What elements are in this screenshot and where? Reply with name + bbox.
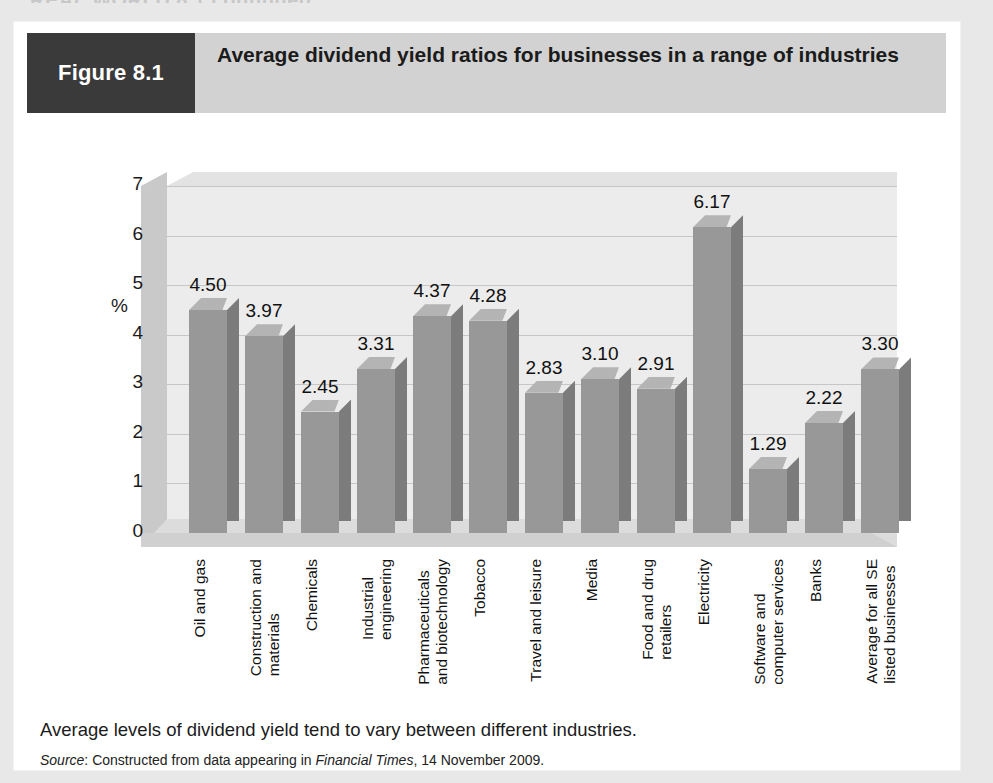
bar[interactable]	[525, 393, 563, 533]
source-publication: Financial Times	[316, 752, 414, 768]
bar[interactable]	[357, 369, 395, 533]
figure-source: Source: Constructed from data appearing …	[40, 752, 544, 768]
bar[interactable]	[245, 336, 283, 533]
x-axis-category-label: Construction and materials	[247, 559, 284, 676]
bar-side-face	[283, 324, 295, 521]
bar-value-label: 3.10	[572, 343, 628, 365]
plot-left-wall	[141, 172, 167, 533]
figure-number-badge: Figure 8.1	[27, 33, 195, 113]
bar-side-face	[451, 304, 463, 521]
gridline	[167, 186, 897, 187]
x-axis-category-label: Food and drug retailers	[639, 559, 676, 660]
gridline	[167, 236, 897, 237]
figure-number-label: Figure 8.1	[58, 60, 164, 86]
bar-value-label: 2.83	[516, 357, 572, 379]
bar-side-face	[507, 309, 519, 521]
y-axis-tick-label: 5	[109, 272, 143, 294]
bar-side-face	[731, 215, 743, 521]
bar-value-label: 4.37	[404, 280, 460, 302]
bar[interactable]	[693, 227, 731, 533]
x-axis-category-label: Electricity	[695, 559, 713, 625]
bar-value-label: 2.22	[796, 387, 852, 409]
bar-value-label: 6.17	[684, 191, 740, 213]
plot-back-top	[167, 172, 897, 186]
bar-value-label: 1.29	[740, 433, 796, 455]
bar-side-face	[563, 381, 575, 521]
figure-caption: Average levels of dividend yield tend to…	[40, 719, 637, 741]
x-axis-category-label: Tobacco	[471, 559, 489, 617]
bar[interactable]	[637, 389, 675, 533]
y-axis-tick-label: 6	[109, 223, 143, 245]
bar[interactable]	[861, 369, 899, 533]
source-prefix: Source	[40, 752, 84, 768]
bar[interactable]	[581, 379, 619, 533]
x-axis-category-label: Chemicals	[303, 559, 321, 631]
source-text-1: : Constructed from data appearing in	[84, 752, 315, 768]
bar-side-face	[395, 357, 407, 521]
figure-header: Figure 8.1 Average dividend yield ratios…	[27, 33, 946, 113]
y-axis-tick-label: 2	[109, 421, 143, 443]
bar[interactable]	[301, 412, 339, 533]
bar-side-face	[675, 377, 687, 521]
running-head: REAL WORLD 8.1 continued	[30, 0, 312, 3]
figure-card: Figure 8.1 Average dividend yield ratios…	[14, 22, 960, 770]
bar[interactable]	[805, 423, 843, 533]
source-text-2: , 14 November 2009.	[413, 752, 544, 768]
bar-side-face	[339, 400, 351, 521]
x-axis-category-label: Banks	[807, 559, 825, 602]
y-axis-tick-label: 3	[109, 371, 143, 393]
bar-value-label: 3.97	[236, 300, 292, 322]
bar-side-face	[899, 357, 911, 521]
bar-side-face	[227, 298, 239, 521]
bar-side-face	[619, 367, 631, 521]
x-axis-category-label: Pharmaceuticals and biotechnology	[415, 559, 452, 685]
x-axis-category-label: Travel and leisure	[527, 559, 545, 682]
bar-value-label: 3.31	[348, 333, 404, 355]
gridline	[167, 285, 897, 286]
bar-value-label: 2.45	[292, 376, 348, 398]
bar-side-face	[843, 411, 855, 521]
bar[interactable]	[413, 316, 451, 533]
x-axis-category-label: Media	[583, 559, 601, 601]
bar-value-label: 4.50	[180, 274, 236, 296]
x-axis-category-label: Software and computer services	[751, 559, 788, 685]
bar-value-label: 3.30	[852, 333, 908, 355]
x-axis-category-label: Oil and gas	[191, 559, 209, 637]
y-axis-tick-label: 7	[109, 173, 143, 195]
plot-floor-front	[141, 533, 897, 547]
bar[interactable]	[749, 469, 787, 533]
x-axis-category-label: Average for all SE listed businesses	[863, 559, 900, 684]
bar[interactable]	[469, 321, 507, 533]
bar-value-label: 4.28	[460, 285, 516, 307]
y-axis-tick-label: 1	[109, 470, 143, 492]
bar-value-label: 2.91	[628, 353, 684, 375]
y-axis-tick-label: 4	[109, 322, 143, 344]
figure-title: Average dividend yield ratios for busine…	[217, 42, 917, 69]
bar-chart-plot: 012345674.50Oil and gas3.97Construction …	[27, 127, 946, 707]
bar[interactable]	[189, 310, 227, 533]
chart-area: % 012345674.50Oil and gas3.97Constructio…	[27, 127, 946, 707]
figure-page: REAL WORLD 8.1 continued Figure 8.1 Aver…	[0, 0, 993, 783]
y-axis-tick-label: 0	[109, 520, 143, 542]
x-axis-category-label: Industrial engineering	[359, 559, 396, 640]
